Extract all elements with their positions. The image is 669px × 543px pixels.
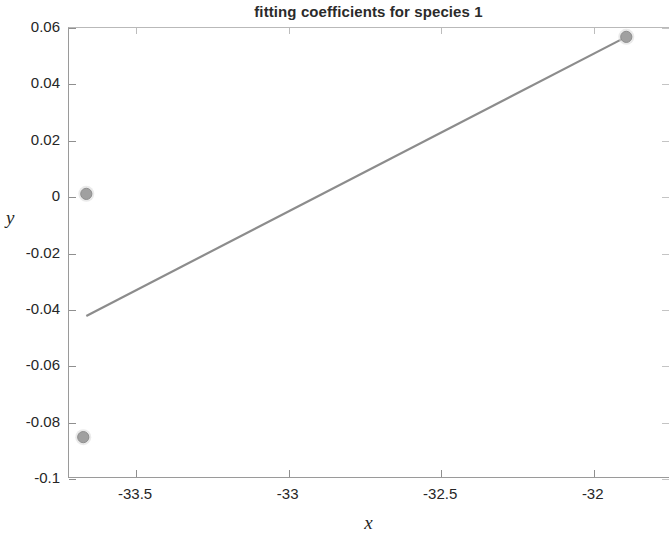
data-point-marker	[618, 29, 634, 45]
data-point-marker	[75, 429, 91, 445]
y-axis-label: y	[6, 207, 14, 229]
data-point-marker	[78, 186, 94, 202]
fit-line	[86, 37, 626, 316]
figure-canvas: fitting coefficients for species 1 0.060…	[0, 0, 669, 543]
x-axis-label: x	[68, 512, 669, 534]
data-layer	[0, 0, 669, 543]
